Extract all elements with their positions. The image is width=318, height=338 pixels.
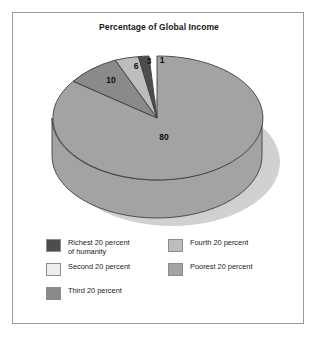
- legend-column-left: Richest 20 percent of humanity Second 20…: [46, 238, 168, 310]
- legend-label-poorest: Poorest 20 percent: [190, 262, 252, 272]
- legend-item-fourth[interactable]: Fourth 20 percent: [168, 238, 284, 257]
- chart-figure: Percentage of Global Income: [0, 0, 318, 338]
- legend-swatch-poorest: [168, 263, 183, 276]
- pie-chart: 80 10 6 3 1: [12, 34, 304, 230]
- pie-label-poorest: 80: [159, 132, 169, 142]
- legend-swatch-third: [46, 287, 61, 300]
- legend-item-third[interactable]: Third 20 percent: [46, 286, 168, 305]
- legend-item-second[interactable]: Second 20 percent: [46, 262, 168, 281]
- legend-label-richest: Richest 20 percent of humanity: [68, 238, 130, 256]
- legend-swatch-second: [46, 263, 61, 276]
- pie-label-richest: 1: [160, 55, 165, 65]
- legend-label-fourth: Fourth 20 percent: [190, 238, 248, 248]
- pie-chart-svg: 80 10 6 3 1: [12, 34, 304, 230]
- page-title: Percentage of Global Income: [0, 22, 318, 32]
- legend-label-second: Second 20 percent: [68, 262, 130, 272]
- pie-label-second: 10: [106, 75, 116, 85]
- legend-column-right: Fourth 20 percent Poorest 20 percent: [168, 238, 284, 286]
- legend-label-third: Third 20 percent: [68, 286, 122, 296]
- chart-legend: Richest 20 percent of humanity Second 20…: [46, 238, 284, 316]
- pie-label-fourth: 3: [147, 56, 152, 66]
- legend-swatch-richest: [46, 239, 61, 252]
- legend-swatch-fourth: [168, 239, 183, 252]
- pie-label-third: 6: [134, 61, 139, 71]
- legend-item-poorest[interactable]: Poorest 20 percent: [168, 262, 284, 281]
- legend-item-richest[interactable]: Richest 20 percent of humanity: [46, 238, 168, 257]
